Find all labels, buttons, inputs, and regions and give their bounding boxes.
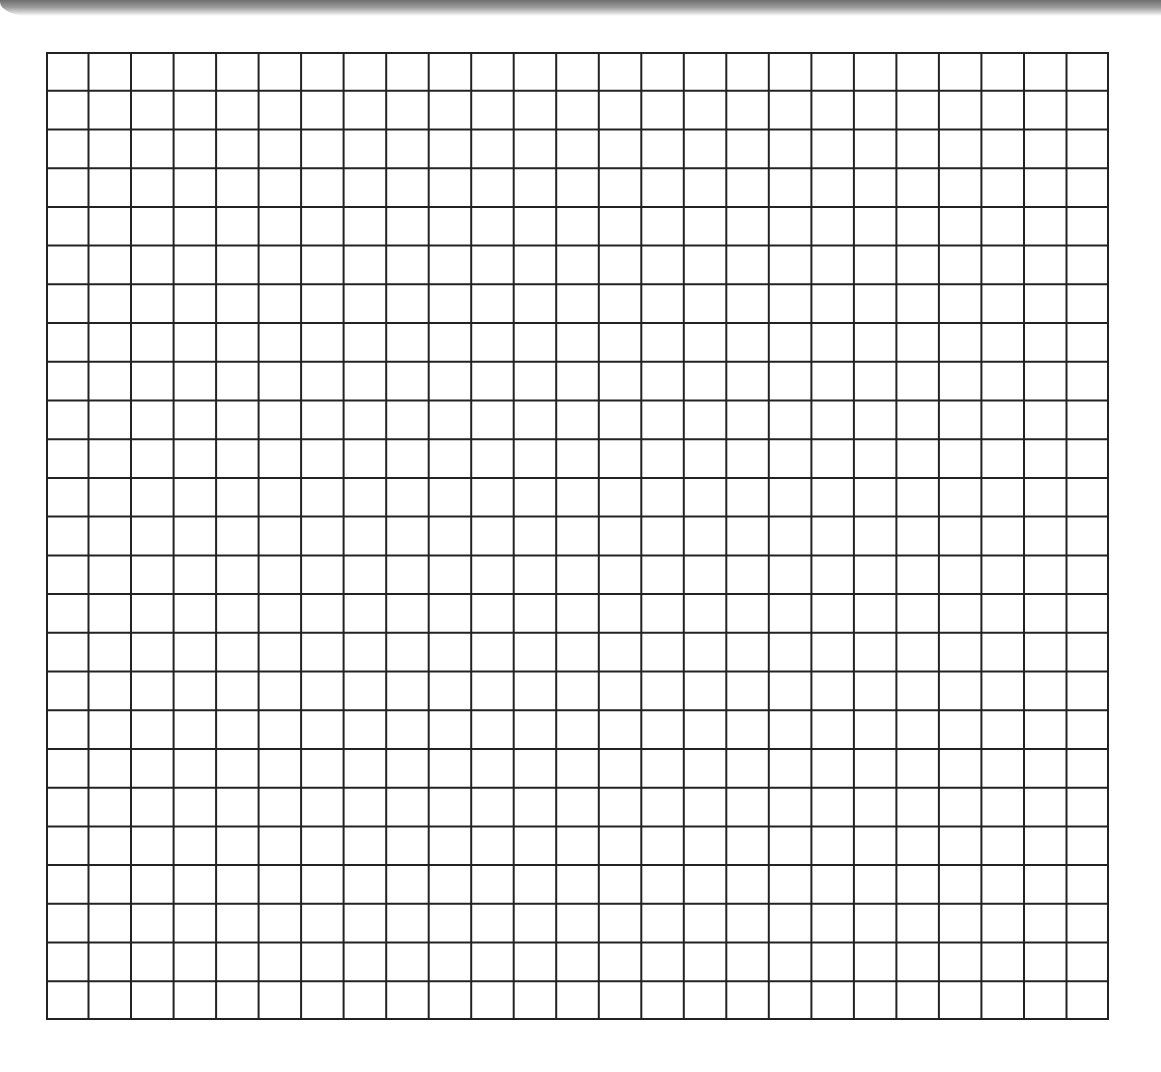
grid-lines [46, 52, 1109, 1020]
top-shadow-band [0, 0, 1161, 16]
